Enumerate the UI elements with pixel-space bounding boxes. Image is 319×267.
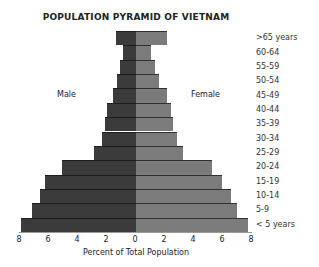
male-bar: [45, 175, 136, 189]
female-bar: [136, 45, 151, 59]
x-tick-label: 4: [190, 235, 195, 244]
x-tick-label: 6: [219, 235, 224, 244]
male-bar: [123, 45, 136, 59]
age-group-label: 15-19: [256, 177, 279, 186]
age-group-label: 5-9: [256, 205, 269, 214]
age-group-label: 20-24: [256, 162, 279, 171]
female-bar: [136, 175, 222, 189]
male-bar: [102, 132, 136, 146]
x-axis-label: Percent of Total Population: [0, 248, 272, 257]
female-bar: [136, 189, 231, 203]
female-label: Female: [191, 90, 220, 99]
male-bar: [62, 160, 136, 174]
female-bar: [136, 218, 248, 232]
x-axis-line: [19, 232, 252, 233]
female-bar: [136, 203, 237, 217]
female-bar: [136, 146, 183, 160]
female-bar: [136, 160, 212, 174]
female-bar: [136, 31, 167, 45]
age-group-label: 45-49: [256, 91, 279, 100]
male-bar: [94, 146, 136, 160]
age-group-label: 35-39: [256, 119, 279, 128]
age-group-label: 40-44: [256, 105, 279, 114]
female-bar: [136, 103, 171, 117]
male-bar: [117, 74, 136, 88]
x-tick-label: 8: [248, 235, 253, 244]
female-bar: [136, 74, 159, 88]
male-bar: [107, 103, 136, 117]
female-bar: [136, 117, 173, 131]
age-group-label: 30-34: [256, 134, 279, 143]
female-bar: [136, 88, 167, 102]
male-bar: [21, 218, 136, 232]
age-group-label: 25-29: [256, 148, 279, 157]
x-tick-label: 6: [45, 235, 50, 244]
female-bar: [136, 132, 177, 146]
age-group-label: 55-59: [256, 62, 279, 71]
female-bar: [136, 60, 155, 74]
male-label: Male: [57, 90, 76, 99]
age-group-label: 50-54: [256, 76, 279, 85]
male-bar: [40, 189, 136, 203]
x-tick-label: 0: [132, 235, 137, 244]
x-tick-label: 2: [161, 235, 166, 244]
x-tick-label: 4: [74, 235, 79, 244]
age-group-label: 10-14: [256, 191, 279, 200]
age-group-label: >65 years: [256, 33, 297, 42]
male-bar: [113, 88, 136, 102]
x-tick-label: 2: [103, 235, 108, 244]
male-bar: [105, 117, 136, 131]
male-bar: [120, 60, 136, 74]
x-tick-label: 8: [16, 235, 21, 244]
male-bar: [116, 31, 136, 45]
population-pyramid-plot: >65 years60-6455-5950-5445-4940-4435-393…: [0, 0, 319, 267]
age-group-label: < 5 years: [256, 220, 295, 229]
male-bar: [32, 203, 136, 217]
age-group-label: 60-64: [256, 48, 279, 57]
